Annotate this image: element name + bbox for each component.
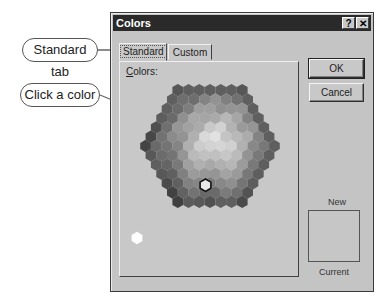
callout-click-a-color: Click a color <box>20 83 100 107</box>
dialog-title: Colors <box>116 17 151 29</box>
tab-standard-label: Standard <box>120 45 167 58</box>
gray-swatch-white[interactable] <box>132 232 143 244</box>
tab-custom[interactable]: Custom <box>168 44 212 60</box>
close-button[interactable]: ✕ <box>356 17 369 29</box>
ok-button[interactable]: OK <box>309 59 364 78</box>
callout-standard-tab: Standard tab <box>22 38 98 62</box>
title-bar: Colors ? ✕ <box>113 15 371 31</box>
colors-dialog: Colors ? ✕ Standard Custom Colors: OK Ca… <box>110 12 374 292</box>
tab-standard[interactable]: Standard <box>119 43 167 61</box>
standard-tab-panel: Colors: <box>119 61 299 277</box>
cancel-button[interactable]: Cancel <box>309 83 364 102</box>
help-button[interactable]: ? <box>342 17 355 29</box>
selected-color-cell[interactable] <box>200 179 211 191</box>
current-label: Current <box>319 267 349 277</box>
color-honeycomb[interactable] <box>120 62 300 278</box>
new-current-swatch <box>308 210 360 262</box>
new-label: New <box>328 197 346 207</box>
tab-custom-label: Custom <box>173 47 207 58</box>
